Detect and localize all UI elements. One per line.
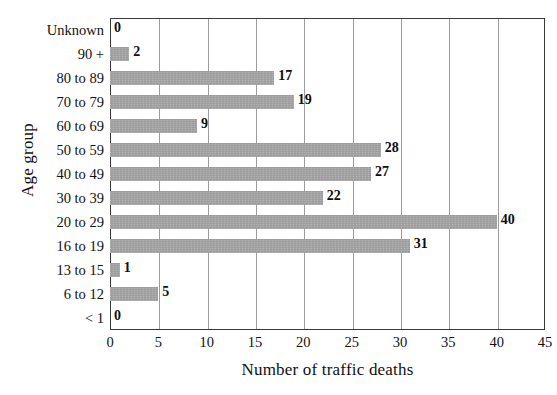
bar[interactable] <box>110 239 410 253</box>
bar[interactable] <box>110 143 381 157</box>
bar-value-label: 28 <box>385 140 399 156</box>
x-axis-tick-label: 10 <box>187 334 227 351</box>
y-axis-tick-label: 40 to 49 <box>0 162 104 186</box>
bar-row: 19 <box>110 90 545 114</box>
bar-value-label: 0 <box>114 20 121 36</box>
x-axis-tick-label: 25 <box>332 334 372 351</box>
bar-row: 9 <box>110 114 545 138</box>
bar-value-label: 9 <box>201 116 208 132</box>
bar-value-label: 31 <box>414 236 428 252</box>
bar-row: 31 <box>110 234 545 258</box>
y-axis-tick-label: 6 to 12 <box>0 282 104 306</box>
bar-value-label: 0 <box>114 308 121 324</box>
bar[interactable] <box>110 287 158 301</box>
y-axis-tick-label: 90 + <box>0 42 104 66</box>
x-axis-title: Number of traffic deaths <box>110 360 545 380</box>
bars-layer: 02171992827224031150 <box>110 18 545 330</box>
y-axis-tick-label: 30 to 39 <box>0 186 104 210</box>
y-axis-tick-label: Unknown <box>0 18 104 42</box>
bar-value-label: 2 <box>133 44 140 60</box>
bar-row: 0 <box>110 18 545 42</box>
bar-row: 1 <box>110 258 545 282</box>
y-axis-tick-label: 20 to 29 <box>0 210 104 234</box>
y-axis-tick-labels: Unknown90 +80 to 8970 to 7960 to 6950 to… <box>0 18 104 330</box>
y-axis-tick-label: 60 to 69 <box>0 114 104 138</box>
x-axis-tick-label: 45 <box>525 334 557 351</box>
bar[interactable] <box>110 191 323 205</box>
y-axis-tick-label: 16 to 19 <box>0 234 104 258</box>
bar-value-label: 40 <box>501 212 515 228</box>
x-axis-tick-label: 15 <box>235 334 275 351</box>
bar-row: 22 <box>110 186 545 210</box>
bar-row: 5 <box>110 282 545 306</box>
y-axis-tick-label: 50 to 59 <box>0 138 104 162</box>
bar-row: 2 <box>110 42 545 66</box>
bar-row: 17 <box>110 66 545 90</box>
y-axis-tick-label: < 1 <box>0 306 104 330</box>
bar-value-label: 17 <box>278 68 292 84</box>
bar-value-label: 1 <box>124 260 131 276</box>
bar[interactable] <box>110 71 274 85</box>
bar[interactable] <box>110 47 129 61</box>
x-axis-tick-label: 0 <box>90 334 130 351</box>
bar-value-label: 19 <box>298 92 312 108</box>
x-axis-tick-labels: 051015202530354045 <box>110 334 545 356</box>
bar[interactable] <box>110 95 294 109</box>
x-axis-tick-label: 5 <box>138 334 178 351</box>
bar-value-label: 27 <box>375 164 389 180</box>
bar[interactable] <box>110 263 120 277</box>
bar[interactable] <box>110 119 197 133</box>
y-axis-tick-label: 13 to 15 <box>0 258 104 282</box>
bar-value-label: 22 <box>327 188 341 204</box>
x-axis-tick-label: 35 <box>428 334 468 351</box>
bar-row: 40 <box>110 210 545 234</box>
x-axis-tick-label: 20 <box>283 334 323 351</box>
x-axis-tick-label: 30 <box>380 334 420 351</box>
bar-value-label: 5 <box>162 284 169 300</box>
x-axis-tick-label: 40 <box>477 334 517 351</box>
bar[interactable] <box>110 167 371 181</box>
bar[interactable] <box>110 215 497 229</box>
bar-row: 0 <box>110 306 545 330</box>
bar-row: 27 <box>110 162 545 186</box>
y-axis-tick-label: 80 to 89 <box>0 66 104 90</box>
y-axis-tick-label: 70 to 79 <box>0 90 104 114</box>
bar-row: 28 <box>110 138 545 162</box>
